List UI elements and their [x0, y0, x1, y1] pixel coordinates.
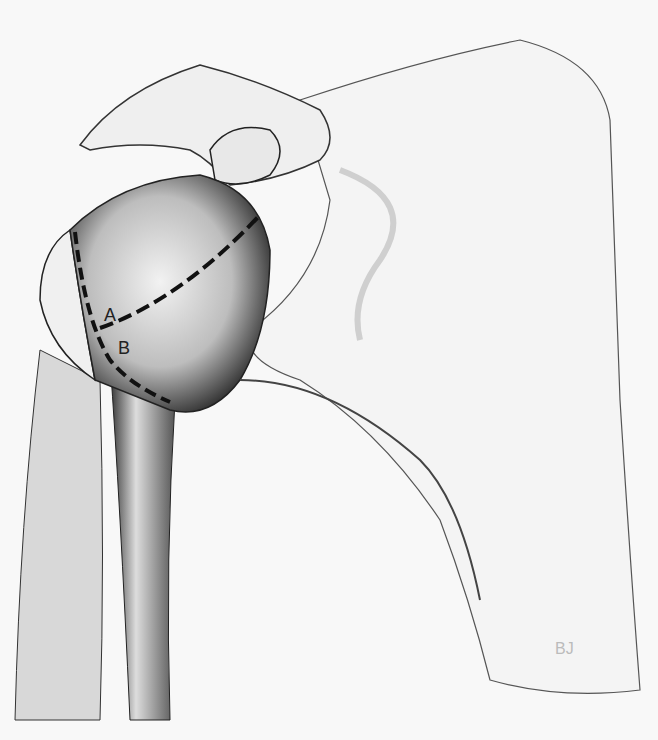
humeral-head [70, 175, 270, 412]
acromion [80, 65, 330, 185]
label-a: A [104, 305, 116, 326]
artist-signature: BJ [555, 640, 574, 658]
humerus-shaft [110, 360, 175, 720]
anatomical-illustration: A B BJ [0, 0, 658, 740]
label-b: B [118, 338, 130, 359]
shoulder-drawing [0, 0, 658, 740]
